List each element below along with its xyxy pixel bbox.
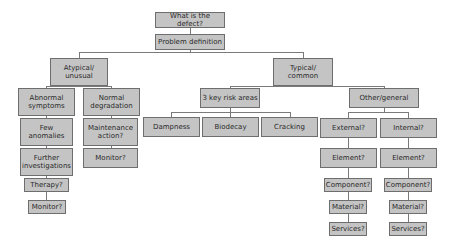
edge (79, 52, 303, 53)
node-other-general: Other/general (349, 88, 419, 108)
node-normal-degradation: Normal degradation (83, 88, 140, 116)
node-material-internal: Material? (389, 200, 427, 214)
node-dampness: Dampness (143, 117, 200, 137)
node-monitor-left: Monitor? (28, 200, 66, 214)
node-monitor-mid: Monitor? (83, 148, 138, 168)
node-maintenance-action: Maintenance action? (83, 118, 138, 146)
defect-diagnosis-flowchart: What is the defect? Problem definition A… (0, 0, 452, 246)
node-abnormal-symptoms: Abnormal symptoms (18, 88, 75, 116)
node-element-internal: Element? (380, 148, 437, 168)
node-external: External? (320, 118, 377, 138)
node-typical-common: Typical/ common (273, 58, 333, 86)
node-services-internal: Services? (389, 222, 427, 236)
node-internal: Internal? (380, 118, 437, 138)
edge (408, 192, 409, 200)
edge (348, 112, 408, 113)
edge (408, 138, 409, 148)
node-3-key-risk-areas: 3 key risk areas (200, 88, 260, 108)
node-further-investigations: Further investigations (20, 148, 73, 176)
node-cracking: Cracking (261, 117, 318, 137)
edge (408, 214, 409, 222)
node-what-is-the-defect: What is the defect? (155, 12, 225, 28)
node-services-external: Services? (329, 222, 367, 236)
edge (348, 214, 349, 222)
node-atypical-unusual: Atypical/ unusual (50, 58, 108, 86)
edge (348, 138, 349, 148)
node-element-external: Element? (320, 148, 377, 168)
node-material-external: Material? (329, 200, 367, 214)
node-component-external: Component? (324, 178, 372, 192)
node-few-anomalies: Few anomalies (20, 118, 73, 146)
node-therapy: Therapy? (24, 178, 69, 192)
node-component-internal: Component? (384, 178, 432, 192)
edge (46, 192, 47, 200)
edge (348, 192, 349, 200)
edge (348, 168, 349, 178)
edge (230, 86, 384, 87)
node-problem-definition: Problem definition (155, 34, 225, 50)
node-biodecay: Biodecay (202, 117, 259, 137)
edge (46, 86, 111, 87)
edge (408, 168, 409, 178)
